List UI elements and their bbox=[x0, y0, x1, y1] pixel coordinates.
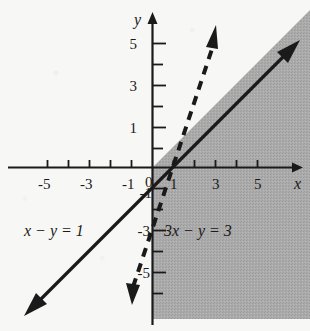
coordinate-plane: x y 0 -5 -3 -1 1 3 5 5 3 1 -1 -3 -5 x − … bbox=[0, 0, 310, 331]
equation-label-solid-line: x − y = 1 bbox=[23, 222, 84, 240]
x-tick-label-minus1: -1 bbox=[122, 176, 135, 192]
equation-label-dashed-line: 3x − y = 3 bbox=[163, 222, 232, 240]
y-axis-label: y bbox=[132, 11, 142, 29]
y-tick-label-5: 5 bbox=[130, 36, 138, 52]
y-tick-label-minus5: -5 bbox=[138, 265, 151, 281]
x-axis-label: x bbox=[293, 175, 301, 192]
y-tick-label-minus1: -1 bbox=[140, 185, 153, 201]
x-tick-label-1: 1 bbox=[170, 176, 178, 192]
x-tick-label-3: 3 bbox=[212, 176, 220, 192]
y-tick-label-3: 3 bbox=[130, 78, 138, 94]
y-tick-label-minus3: -3 bbox=[138, 223, 151, 239]
x-tick-label-5: 5 bbox=[254, 176, 262, 192]
y-tick-label-1: 1 bbox=[130, 120, 138, 136]
graph-figure: x y 0 -5 -3 -1 1 3 5 5 3 1 -1 -3 -5 x − … bbox=[0, 0, 310, 331]
x-tick-label-minus5: -5 bbox=[38, 176, 51, 192]
x-tick-label-minus3: -3 bbox=[80, 176, 93, 192]
